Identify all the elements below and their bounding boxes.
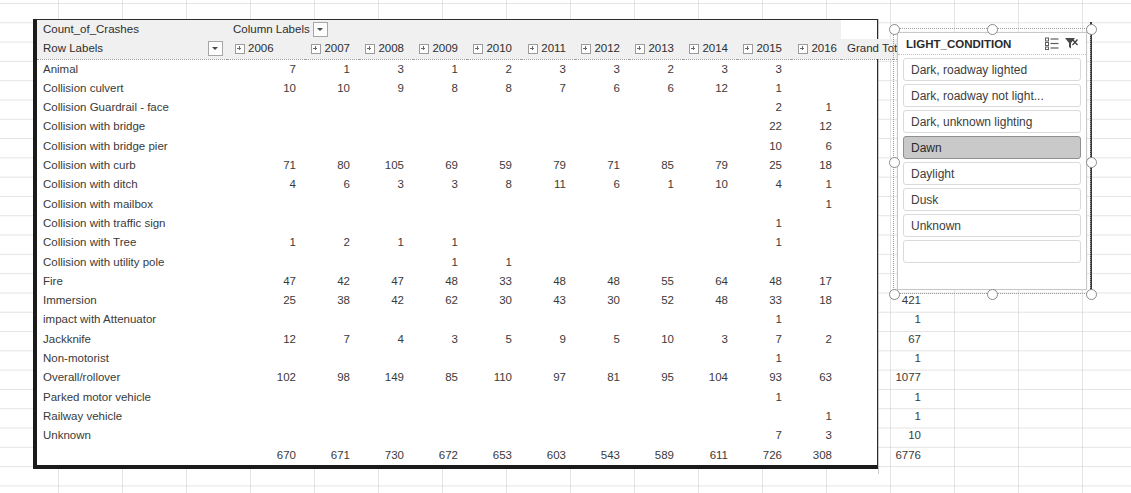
grand-total-cell[interactable]: 421: [841, 291, 927, 310]
data-cell[interactable]: 2: [305, 233, 359, 252]
data-cell[interactable]: [521, 426, 575, 445]
data-cell[interactable]: 17: [791, 272, 841, 291]
clear-filter-icon[interactable]: [1063, 36, 1080, 52]
data-cell[interactable]: [227, 310, 305, 329]
year-header-2011[interactable]: 2011: [521, 39, 575, 59]
data-cell[interactable]: 1: [791, 175, 841, 194]
data-cell[interactable]: 93: [737, 368, 791, 387]
slicer-item[interactable]: Unknown: [903, 214, 1081, 237]
data-cell[interactable]: 47: [227, 272, 305, 291]
data-cell[interactable]: 38: [305, 291, 359, 310]
data-cell[interactable]: 1: [737, 214, 791, 233]
data-cell[interactable]: [683, 117, 737, 136]
data-cell[interactable]: [791, 388, 841, 407]
row-label-cell[interactable]: Animal: [37, 59, 227, 79]
data-cell[interactable]: [305, 310, 359, 329]
data-cell[interactable]: 71: [227, 156, 305, 175]
data-cell[interactable]: [575, 426, 629, 445]
data-cell[interactable]: 12: [683, 79, 737, 98]
data-cell[interactable]: 9: [359, 79, 413, 98]
data-cell[interactable]: 1: [467, 253, 521, 272]
row-label-cell[interactable]: Fire: [37, 272, 227, 291]
grand-total-cell[interactable]: 10: [841, 426, 927, 445]
data-cell[interactable]: [305, 253, 359, 272]
year-header-2015[interactable]: 2015: [737, 39, 791, 59]
data-cell[interactable]: 3: [359, 175, 413, 194]
data-cell[interactable]: [413, 137, 467, 156]
data-cell[interactable]: 71: [575, 156, 629, 175]
data-cell[interactable]: [575, 137, 629, 156]
data-cell[interactable]: [305, 137, 359, 156]
data-cell[interactable]: [305, 195, 359, 214]
data-cell[interactable]: [467, 98, 521, 117]
data-cell[interactable]: 671: [305, 446, 359, 465]
year-header-2010[interactable]: 2010: [467, 39, 521, 59]
data-cell[interactable]: [305, 98, 359, 117]
data-cell[interactable]: [629, 195, 683, 214]
pivot-table[interactable]: Count_of_Crashes Column Labels Row La: [33, 19, 878, 469]
data-cell[interactable]: [359, 310, 413, 329]
row-label-cell[interactable]: Unknown: [37, 426, 227, 445]
data-cell[interactable]: [791, 349, 841, 368]
data-cell[interactable]: 1: [413, 59, 467, 79]
data-cell[interactable]: [521, 407, 575, 426]
data-cell[interactable]: 3: [521, 59, 575, 79]
data-cell[interactable]: [413, 195, 467, 214]
data-cell[interactable]: 3: [737, 59, 791, 79]
data-cell[interactable]: 5: [467, 330, 521, 349]
data-cell[interactable]: 102: [227, 368, 305, 387]
data-cell[interactable]: 7: [305, 330, 359, 349]
data-cell[interactable]: 79: [683, 156, 737, 175]
slicer-item[interactable]: Daylight: [903, 162, 1081, 185]
data-cell[interactable]: 42: [305, 272, 359, 291]
year-header-2013[interactable]: 2013: [629, 39, 683, 59]
data-cell[interactable]: [467, 214, 521, 233]
data-cell[interactable]: 12: [227, 330, 305, 349]
data-cell[interactable]: 7: [737, 330, 791, 349]
data-cell[interactable]: [629, 407, 683, 426]
grand-total-cell[interactable]: 1077: [841, 368, 927, 387]
data-cell[interactable]: 8: [467, 79, 521, 98]
data-cell[interactable]: [467, 388, 521, 407]
grand-total-cell[interactable]: 6776: [841, 446, 927, 465]
data-cell[interactable]: [521, 349, 575, 368]
row-label-cell[interactable]: Parked motor vehicle: [37, 388, 227, 407]
data-cell[interactable]: [791, 310, 841, 329]
data-cell[interactable]: [413, 98, 467, 117]
data-cell[interactable]: [305, 426, 359, 445]
data-cell[interactable]: 1: [737, 233, 791, 252]
resize-handle-top-right[interactable]: [1086, 24, 1097, 35]
row-labels-cell[interactable]: Row Labels: [37, 39, 227, 59]
data-cell[interactable]: 97: [521, 368, 575, 387]
data-cell[interactable]: [629, 253, 683, 272]
year-header-2006[interactable]: 2006: [227, 39, 305, 59]
data-cell[interactable]: 4: [227, 175, 305, 194]
data-cell[interactable]: [467, 310, 521, 329]
data-cell[interactable]: [413, 426, 467, 445]
data-cell[interactable]: 7: [737, 426, 791, 445]
data-cell[interactable]: 33: [467, 272, 521, 291]
data-cell[interactable]: [521, 388, 575, 407]
data-cell[interactable]: 1: [737, 349, 791, 368]
data-cell[interactable]: 2: [791, 330, 841, 349]
multi-select-icon[interactable]: [1044, 36, 1061, 52]
data-cell[interactable]: 726: [737, 446, 791, 465]
data-cell[interactable]: [359, 349, 413, 368]
slicer-item[interactable]: Dark, roadway lighted: [903, 58, 1081, 81]
data-cell[interactable]: 52: [629, 291, 683, 310]
data-cell[interactable]: 3: [359, 59, 413, 79]
grand-total-cell[interactable]: 1: [841, 349, 927, 368]
data-cell[interactable]: [521, 117, 575, 136]
data-cell[interactable]: [521, 253, 575, 272]
data-cell[interactable]: 33: [737, 291, 791, 310]
data-cell[interactable]: [629, 137, 683, 156]
data-cell[interactable]: [227, 253, 305, 272]
data-cell[interactable]: [629, 310, 683, 329]
data-cell[interactable]: [521, 233, 575, 252]
row-label-cell[interactable]: Collision with curb: [37, 156, 227, 175]
data-cell[interactable]: [227, 137, 305, 156]
data-cell[interactable]: 1: [791, 195, 841, 214]
data-cell[interactable]: 85: [629, 156, 683, 175]
data-cell[interactable]: [791, 214, 841, 233]
resize-handle-middle-right[interactable]: [1086, 157, 1097, 168]
